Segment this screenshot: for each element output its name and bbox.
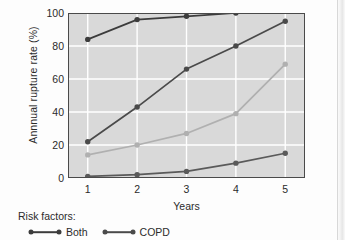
legend-item: Both [28,226,88,238]
data-point [134,104,139,109]
data-point [283,61,288,66]
data-point [184,14,189,19]
x-axis-tick-label: 2 [134,184,140,195]
y-axis-tick-label: 80 [52,41,64,52]
plot-area: 02040608010012345 [68,13,305,178]
y-axis-tick-label: 40 [52,107,64,118]
data-point [85,152,90,157]
data-point [134,142,139,147]
legend-items: BothCOPD [28,226,318,238]
chart-figure: Annnual rupture rate (%) 020406080100123… [0,0,345,240]
data-point [184,131,189,136]
data-point [184,169,189,174]
data-point [233,160,238,165]
legend-swatch [28,228,62,237]
legend-item: COPD [102,226,170,238]
legend: Risk factors: BothCOPD [18,210,318,238]
data-point [85,37,90,42]
legend-label: COPD [140,226,170,238]
data-point [233,43,238,48]
x-axis-tick-label: 4 [233,184,239,195]
data-point [134,172,139,177]
data-point [283,19,288,24]
y-axis-tick-label: 100 [46,8,64,19]
legend-label: Both [66,226,88,238]
line-chart-svg [68,13,305,178]
legend-swatch [102,228,136,237]
legend-title: Risk factors: [18,210,318,222]
x-axis-tick-label: 5 [282,184,288,195]
y-axis-tick-label: 60 [52,74,64,85]
y-axis-tick-label: 0 [58,173,64,184]
data-point [283,151,288,156]
scan-page-edge-line [337,0,338,240]
data-point [85,139,90,144]
x-axis-tick-label: 3 [184,184,190,195]
x-axis-tick-label: 1 [85,184,91,195]
y-axis-tick-label: 20 [52,140,64,151]
y-axis-title: Annnual rupture rate (%) [27,5,39,165]
data-point [184,66,189,71]
data-point [134,17,139,22]
data-point [233,111,238,116]
